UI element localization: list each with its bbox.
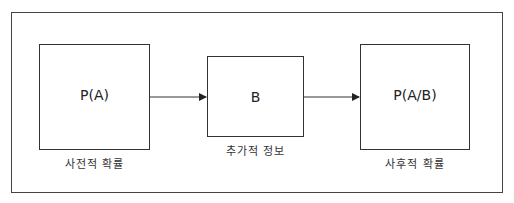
arrows-layer [0,0,514,203]
